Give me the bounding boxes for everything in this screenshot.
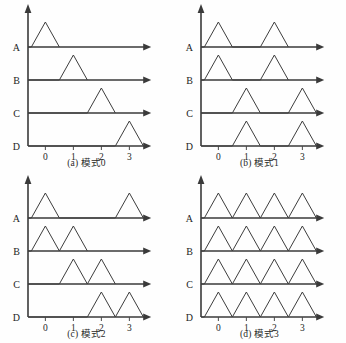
row-label-b: B — [13, 246, 20, 257]
axis-arrow-a — [316, 43, 324, 50]
axis-arrow-b — [316, 247, 324, 254]
axis-arrow-a — [143, 214, 151, 221]
y-axis-arrow — [198, 4, 205, 13]
axis-arrow-a — [143, 43, 151, 50]
waveform-b-c — [202, 88, 317, 113]
panel-a: ABCD0123 (a) 模式0 — [0, 0, 173, 171]
waveform-b-b — [202, 55, 289, 80]
waveform-d-a — [202, 193, 317, 218]
waveform-d-b — [202, 226, 317, 251]
axis-arrow-d — [143, 142, 151, 149]
panel-c-svg: ABCD0123 — [0, 171, 173, 331]
waveform-b-a — [202, 22, 289, 47]
waveform-a-d — [29, 121, 144, 146]
panel-c-caption: (c) 模式2 — [0, 329, 173, 340]
panel-b-caption: (b) 模式1 — [173, 158, 346, 169]
row-label-c: C — [13, 279, 20, 290]
y-axis-arrow — [198, 175, 205, 184]
axis-arrow-c — [316, 280, 324, 287]
row-label-b: B — [186, 75, 193, 86]
axis-arrow-b — [143, 247, 151, 254]
row-label-b: B — [13, 75, 20, 86]
row-label-c: C — [13, 108, 20, 119]
panel-b-svg: ABCD0123 — [173, 0, 346, 160]
waveform-a-a — [29, 22, 60, 47]
panel-a-plot: ABCD0123 — [0, 0, 173, 160]
waveform-a-c — [29, 88, 116, 113]
row-label-d: D — [13, 141, 20, 152]
axis-arrow-d — [143, 313, 151, 320]
panel-a-svg: ABCD0123 — [0, 0, 173, 160]
row-label-d: D — [186, 141, 193, 152]
row-label-c: C — [186, 279, 193, 290]
panel-a-caption: (a) 模式0 — [0, 158, 173, 169]
axis-arrow-c — [316, 109, 324, 116]
panel-b: ABCD0123 (b) 模式1 — [173, 0, 346, 171]
figure-root: ABCD0123 (a) 模式0 ABCD0123 (b) 模式1 ABCD01… — [0, 0, 346, 343]
panel-d: ABCD0123 (d) 模式3 — [173, 171, 346, 342]
axis-arrow-c — [143, 280, 151, 287]
waveform-a-b — [29, 55, 88, 80]
y-axis-arrow — [25, 175, 32, 184]
axis-arrow-c — [143, 109, 151, 116]
axis-arrow-d — [316, 313, 324, 320]
panel-b-plot: ABCD0123 — [173, 0, 346, 160]
row-label-a: A — [186, 42, 194, 53]
axis-arrow-b — [143, 76, 151, 83]
row-label-d: D — [13, 312, 20, 323]
y-axis-arrow — [25, 4, 32, 13]
row-label-a: A — [13, 213, 21, 224]
row-label-b: B — [186, 246, 193, 257]
row-label-d: D — [186, 312, 193, 323]
panel-c-plot: ABCD0123 — [0, 171, 173, 331]
waveform-c-b — [29, 226, 88, 251]
waveform-d-d — [202, 292, 317, 317]
panel-grid: ABCD0123 (a) 模式0 ABCD0123 (b) 模式1 ABCD01… — [0, 0, 346, 343]
axis-arrow-b — [316, 76, 324, 83]
axis-arrow-d — [316, 142, 324, 149]
waveform-d-c — [202, 259, 317, 284]
panel-d-caption: (d) 模式3 — [173, 329, 346, 340]
axis-arrow-a — [316, 214, 324, 221]
waveform-c-d — [29, 292, 144, 317]
panel-c: ABCD0123 (c) 模式2 — [0, 171, 173, 342]
panel-d-plot: ABCD0123 — [173, 171, 346, 331]
row-label-a: A — [13, 42, 21, 53]
panel-d-svg: ABCD0123 — [173, 171, 346, 331]
waveform-b-d — [202, 121, 317, 146]
waveform-c-a — [29, 193, 144, 218]
row-label-c: C — [186, 108, 193, 119]
waveform-c-c — [29, 259, 116, 284]
row-label-a: A — [186, 213, 194, 224]
